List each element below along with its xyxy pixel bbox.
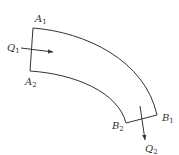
outer-wall-a1-b1 [33, 28, 157, 115]
channel-diagram: A1 A2 Q1 B1 B2 Q2 [0, 0, 179, 155]
label-b2: B2 [111, 120, 124, 133]
inflow-arrow-q1 [21, 48, 53, 52]
outflow-arrow-q2 [140, 106, 145, 140]
inner-wall-a2-b2 [30, 71, 126, 123]
label-q1: Q1 [7, 42, 20, 55]
diagram-canvas: A1 A2 Q1 B1 B2 Q2 [0, 0, 179, 155]
label-a1: A1 [34, 13, 47, 26]
label-q2: Q2 [145, 143, 158, 155]
label-a2: A2 [24, 76, 37, 89]
label-b1: B1 [161, 112, 174, 125]
